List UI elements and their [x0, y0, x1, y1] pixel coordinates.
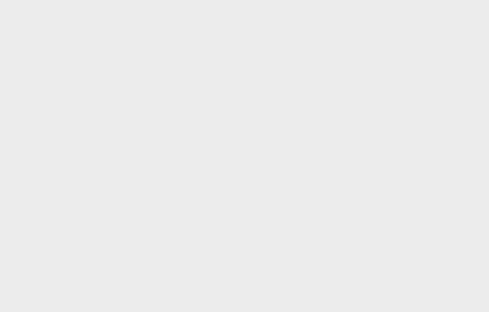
white-panel [14, 14, 476, 71]
diagram-canvas [0, 0, 489, 312]
diagram-panel [14, 14, 232, 72]
